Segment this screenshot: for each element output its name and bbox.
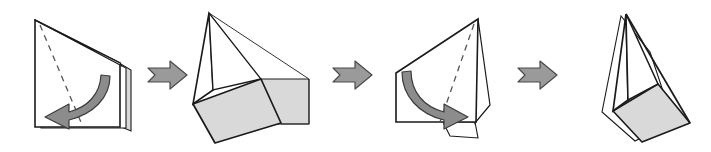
step2-center-triangle-face xyxy=(209,13,261,90)
step-arrow-3 xyxy=(518,61,557,89)
sequence-canvas xyxy=(0,0,711,152)
step-figure-2 xyxy=(193,13,309,143)
step-figure-4 xyxy=(602,14,690,142)
step-arrow-1 xyxy=(148,61,187,89)
step-arrow-2 xyxy=(333,61,372,89)
step-figure-1 xyxy=(35,20,131,131)
origami-folding-sequence xyxy=(0,0,711,152)
step3-front-sheet xyxy=(396,19,478,122)
step4-main-triangle-face xyxy=(626,14,658,100)
arrow-right-icon xyxy=(333,61,372,89)
arrow-right-icon xyxy=(148,61,187,89)
arrow-right-icon xyxy=(518,61,557,89)
step-figure-3 xyxy=(396,19,490,138)
